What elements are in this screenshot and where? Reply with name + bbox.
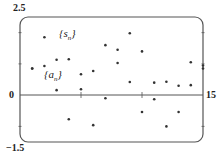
data-point (177, 111, 180, 114)
data-point (141, 111, 144, 114)
data-point (141, 50, 144, 53)
series-label-a: {an} (44, 68, 62, 83)
data-point (92, 70, 95, 73)
data-point (80, 73, 83, 76)
data-point (190, 61, 193, 64)
y-tick-zero: 0 (9, 89, 14, 100)
data-point (43, 65, 46, 68)
data-point (68, 58, 71, 61)
data-point (55, 59, 58, 62)
data-point (31, 67, 34, 70)
a-label-text: {a (44, 68, 54, 80)
a-label-close: } (57, 68, 61, 80)
data-point (202, 64, 205, 67)
data-point (116, 49, 119, 52)
data-point (177, 84, 180, 87)
s-label-text: {s (59, 27, 68, 39)
data-point (104, 44, 107, 47)
s-label-close: } (71, 27, 75, 39)
data-point (104, 97, 107, 100)
data-point (80, 88, 83, 91)
series-label-s: {sn} (59, 27, 76, 42)
x-tick-right: 15 (206, 89, 216, 100)
y-tick-top: 2.5 (13, 2, 26, 13)
data-point (165, 125, 168, 128)
data-point (153, 98, 156, 101)
data-point (116, 62, 119, 65)
data-point (92, 124, 95, 127)
data-point (202, 67, 205, 70)
data-point (43, 36, 46, 39)
data-point (190, 84, 193, 87)
data-point (129, 32, 132, 35)
data-point (55, 89, 58, 92)
y-tick-bottom: −1.5 (6, 142, 24, 153)
data-point (129, 81, 132, 84)
data-point (165, 80, 168, 83)
scatter-plot (0, 0, 222, 155)
data-point (68, 118, 71, 121)
data-point (153, 81, 156, 84)
